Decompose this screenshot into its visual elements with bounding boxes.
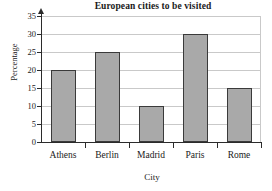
y-tick-mark (37, 142, 42, 143)
bar-berlin (95, 52, 120, 142)
y-tick-mark (37, 16, 42, 17)
y-tick-mark (37, 106, 42, 107)
bar-paris (183, 34, 208, 142)
x-axis-line (41, 142, 262, 143)
y-tick-mark (37, 88, 42, 89)
y-tick-label: 0 (14, 138, 36, 147)
x-tick-mark (261, 143, 262, 148)
x-tick-mark (217, 143, 218, 148)
y-tick-label: 15 (14, 84, 36, 93)
chart-screenshot: European cities to be visited Percentage… (0, 0, 272, 191)
gridline (41, 16, 261, 17)
x-tick-mark (173, 143, 174, 148)
gridline (41, 52, 261, 53)
y-tick-label: 25 (14, 48, 36, 57)
y-tick-mark (37, 34, 42, 35)
x-tick-label-paris: Paris (173, 150, 217, 160)
x-tick-label-madrid: Madrid (129, 150, 173, 160)
y-tick-mark (37, 70, 42, 71)
y-axis-arrow-icon (38, 8, 44, 14)
y-tick-label: 20 (14, 66, 36, 75)
gridline (41, 34, 261, 35)
bar-rome (227, 88, 252, 142)
x-tick-mark (85, 143, 86, 148)
y-tick-label: 5 (14, 120, 36, 129)
y-tick-label: 10 (14, 102, 36, 111)
x-tick-label-rome: Rome (217, 150, 261, 160)
y-tick-mark (37, 124, 42, 125)
x-tick-mark (129, 143, 130, 148)
bar-athens (51, 70, 76, 142)
x-tick-label-athens: Athens (41, 150, 85, 160)
x-axis-title: City (42, 172, 262, 182)
chart-title: European cities to be visited (42, 1, 264, 11)
bar-madrid (139, 106, 164, 142)
y-tick-mark (37, 52, 42, 53)
x-tick-label-berlin: Berlin (85, 150, 129, 160)
y-tick-label: 30 (14, 30, 36, 39)
plot-area (41, 16, 261, 142)
y-tick-label: 35 (14, 12, 36, 21)
